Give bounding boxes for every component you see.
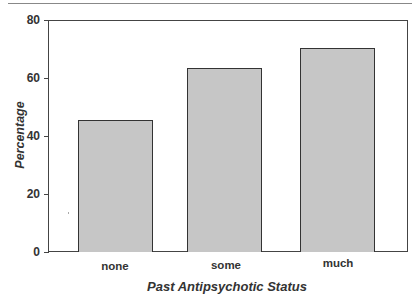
- x-tick-label-none: none: [75, 260, 155, 272]
- y-tick-label-20: 20: [10, 187, 40, 201]
- scan-artifact: [68, 212, 69, 214]
- x-axis-title: Past Antipsychotic Status: [100, 279, 354, 294]
- y-tick-label-60: 60: [10, 71, 40, 85]
- bar-none: [78, 120, 153, 252]
- y-tick-60: [44, 78, 49, 79]
- x-tick-label-some: some: [186, 259, 266, 271]
- x-tick-label-much: much: [298, 257, 378, 269]
- y-tick-20: [44, 194, 49, 195]
- top-rule: [8, 3, 412, 4]
- y-tick-40: [44, 136, 49, 137]
- bar-some: [187, 68, 262, 252]
- y-tick-80: [44, 20, 49, 21]
- bar-much: [300, 48, 375, 252]
- y-axis-title: Percentage: [13, 95, 27, 175]
- y-tick-label-0: 0: [10, 245, 40, 259]
- y-tick-label-80: 80: [10, 13, 40, 27]
- y-tick-0: [44, 252, 49, 253]
